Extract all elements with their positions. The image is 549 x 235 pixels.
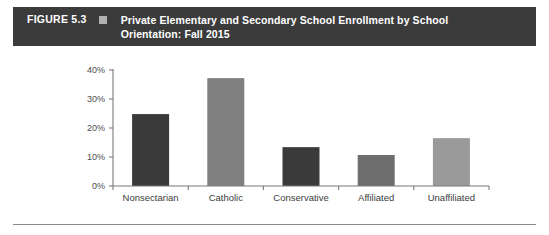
y-axis-tick-label: 10% <box>87 152 105 162</box>
bar <box>207 78 244 186</box>
y-axis-tick-label: 0% <box>92 181 105 191</box>
y-axis-tick-label: 40% <box>87 65 105 75</box>
x-axis-labels: NonsectarianCatholicConservativeChristia… <box>123 192 475 205</box>
x-axis-tick-label: Nonsectarian <box>123 192 179 203</box>
bars-group <box>132 78 470 186</box>
bar <box>132 114 169 186</box>
figure-header-row: FIGURE 5.3 Private Elementary and Second… <box>27 13 526 41</box>
figure-title-line-1: Private Elementary and Secondary School … <box>121 14 449 26</box>
x-axis-tick-label: Catholic <box>209 192 244 203</box>
x-axis-tick-label: ConservativeChristian <box>273 192 328 205</box>
square-marker-icon <box>99 16 107 24</box>
x-axis-tick-label: AffiliatedReligious <box>357 192 396 205</box>
y-axis-tick-label: 20% <box>87 123 105 133</box>
bar-chart-svg: 0%10%20%30%40% NonsectarianCatholicConse… <box>0 55 549 205</box>
figure-title-line-2: Orientation: Fall 2015 <box>121 28 230 40</box>
figure-header-banner: FIGURE 5.3 Private Elementary and Second… <box>13 7 536 46</box>
bar <box>358 155 395 186</box>
x-axis-tick-label: UnaffiliatedReligious <box>428 192 475 205</box>
bar <box>433 138 470 186</box>
bottom-divider <box>13 224 536 225</box>
figure-number-label: FIGURE 5.3 <box>27 13 87 26</box>
figure-container: FIGURE 5.3 Private Elementary and Second… <box>0 0 549 235</box>
x-axis <box>113 186 489 190</box>
y-axis: 0%10%20%30%40% <box>87 65 113 191</box>
figure-title: Private Elementary and Secondary School … <box>121 13 449 41</box>
bar-chart: 0%10%20%30%40% NonsectarianCatholicConse… <box>0 55 549 205</box>
y-axis-tick-label: 30% <box>87 94 105 104</box>
bar <box>283 147 320 186</box>
